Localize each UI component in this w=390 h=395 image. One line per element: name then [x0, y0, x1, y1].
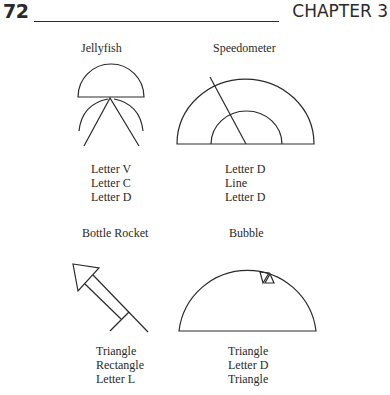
rocket-body-right: [93, 275, 148, 332]
part-label: Line: [225, 176, 265, 190]
bubble-dome-letter-d: [179, 270, 316, 331]
part-label: Triangle: [228, 372, 268, 386]
speedometer-needle-line: [210, 77, 246, 144]
figure-parts-jellyfish: Letter V Letter C Letter D: [91, 162, 131, 204]
part-label: Letter D: [225, 190, 265, 204]
rocket-letter-l-foot: [110, 312, 129, 331]
figure-title-speedometer: Speedometer: [213, 41, 276, 56]
bottle-rocket-drawing: [73, 264, 148, 332]
jellyfish-left-arc: [79, 99, 108, 131]
bubble-drawing: [179, 270, 316, 331]
figure-parts-speedometer: Letter D Line Letter D: [225, 162, 265, 204]
part-label: Letter C: [91, 176, 131, 190]
part-label: Triangle: [96, 344, 144, 358]
figure-parts-bubble: Triangle Letter D Triangle: [228, 344, 268, 386]
rocket-body-left: [85, 284, 121, 319]
part-label: Letter V: [91, 162, 131, 176]
part-label: Letter D: [91, 190, 131, 204]
jellyfish-drawing: [78, 64, 144, 146]
figure-drawings: [0, 0, 390, 395]
part-label: Rectangle: [96, 358, 144, 372]
speedometer-drawing: [177, 77, 314, 144]
jellyfish-dome-letter-d: [78, 64, 144, 97]
figure-title-bubble: Bubble: [229, 226, 264, 241]
figure-title-jellyfish: Jellyfish: [81, 41, 122, 56]
jellyfish-right-arc: [114, 99, 143, 131]
part-label: Letter D: [228, 358, 268, 372]
figure-parts-bottle-rocket: Triangle Rectangle Letter L: [96, 344, 144, 386]
part-label: Triangle: [228, 344, 268, 358]
part-label: Letter D: [225, 162, 265, 176]
part-label: Letter L: [96, 372, 144, 386]
speedometer-inner-letter-d: [211, 111, 282, 144]
figure-title-bottle-rocket: Bottle Rocket: [82, 226, 148, 241]
